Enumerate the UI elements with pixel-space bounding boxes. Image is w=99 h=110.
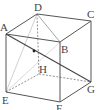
- label-G: G: [87, 83, 95, 95]
- edge-DA: [6, 14, 37, 34]
- cube-diagram: A D C B H G E F: [0, 0, 99, 110]
- label-H: H: [39, 63, 47, 75]
- label-B: B: [61, 43, 68, 55]
- label-F: F: [56, 102, 62, 110]
- point-on-AG: [33, 50, 36, 53]
- segment-DE: [6, 14, 37, 92]
- label-C: C: [87, 8, 94, 20]
- edge-EF: [6, 92, 60, 102]
- edge-BC: [60, 21, 91, 42]
- label-D: D: [34, 1, 42, 13]
- edge-CD: [37, 14, 91, 21]
- label-E: E: [2, 94, 9, 106]
- diagonal-AG: [6, 34, 91, 82]
- segment-DB: [37, 14, 60, 42]
- label-A: A: [0, 21, 8, 33]
